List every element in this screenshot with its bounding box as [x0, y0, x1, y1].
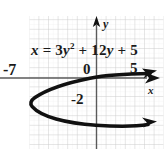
equation-term1-coeff: 3 [55, 42, 63, 58]
equation-plus-2: + [114, 42, 131, 58]
y-tick-label-neg2: -2 [71, 92, 84, 107]
x-axis-label: x [148, 85, 154, 96]
equation-equals: = [39, 42, 56, 58]
origin-label-zero: 0 [83, 62, 91, 77]
x-tick-label-neg7: -7 [3, 62, 16, 78]
equation-label: x = 3y2 + 12y + 5 [31, 43, 138, 58]
equation-plus-1: + [75, 42, 92, 58]
equation-term2-var: y [107, 42, 114, 58]
graph-figure: x = 3y2 + 12y + 5 -7 0 5 -2 y x [0, 0, 165, 149]
x-tick-label-five: 5 [130, 61, 138, 76]
equation-term1-var: y [63, 42, 70, 58]
y-axis-label: y [103, 18, 108, 30]
equation-constant: 5 [130, 42, 138, 58]
equation-term2-coeff: 12 [91, 42, 106, 58]
equation-lhs: x [31, 42, 39, 58]
